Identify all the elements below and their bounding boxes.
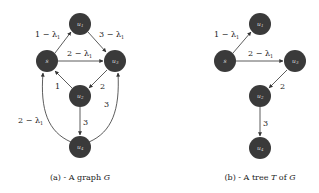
edge-label-u2-u4: 3 <box>83 118 88 127</box>
node-s: s <box>36 50 58 72</box>
node-s: s <box>214 50 236 72</box>
node-u3: u3 <box>284 50 306 72</box>
edge-label-u2-u4: 3 <box>263 119 268 128</box>
node-u1: u1 <box>249 13 271 35</box>
edge-label-s-u3: 2 − λ1 <box>67 49 92 59</box>
node-u4: u4 <box>249 137 271 159</box>
panel-b-tree: 1 − λ1 2 − λ1 2 3 u1 s u3 u2 u4 (b) - A … <box>214 13 306 182</box>
edge-label-s-u1: 1 − λ1 <box>35 30 60 40</box>
edge-label-u4-s: 2 − λ1 <box>18 116 43 126</box>
node-u1: u1 <box>69 13 91 35</box>
node-u3: u3 <box>104 50 126 72</box>
edge-label-u3-u2: 2 <box>100 82 105 91</box>
node-u2: u2 <box>69 85 91 107</box>
caption-b: (b) - A tree T of G <box>224 173 296 182</box>
node-u4: u4 <box>69 136 91 158</box>
svg-text:s: s <box>224 57 227 64</box>
node-u2: u2 <box>249 85 271 107</box>
panel-a-graph: 1 − λ1 3 − λ1 2 − λ1 2 1 3 2 − λ1 3 u1 s… <box>18 13 126 182</box>
edge-label-s-u1: 1 − λ1 <box>214 30 239 40</box>
edge-label-u2-s: 1 <box>55 82 60 91</box>
figure: 1 − λ1 3 − λ1 2 − λ1 2 1 3 2 − λ1 3 u1 s… <box>0 0 319 193</box>
svg-text:s: s <box>46 57 49 64</box>
caption-a: (a) - A graph G <box>50 173 111 182</box>
edge-label-u4-u3: 3 <box>104 100 109 109</box>
edge-label-s-u3: 2 − λ1 <box>248 49 273 59</box>
edge-label-u1-u3: 3 − λ1 <box>99 30 124 40</box>
edge-label-u3-u2: 2 <box>280 82 285 91</box>
